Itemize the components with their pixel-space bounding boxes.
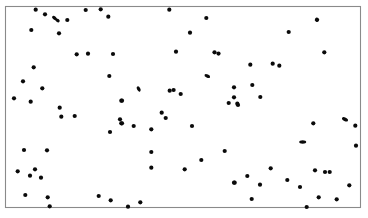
data-point [99,7,103,11]
data-point [354,144,358,148]
data-point [271,62,275,66]
data-point [21,79,25,83]
data-point [317,195,321,199]
data-point [57,31,61,35]
data-point [32,65,36,69]
data-point [45,148,49,152]
data-point [107,74,111,78]
data-point [248,63,252,67]
data-point [323,170,327,174]
data-point [109,198,113,202]
data-point [227,101,231,105]
data-point [183,167,187,171]
data-point [28,174,32,178]
data-point [299,140,306,143]
data-point [235,102,239,106]
data-point [216,52,220,56]
data-point [305,205,309,209]
data-point [258,183,262,187]
data-point [40,86,44,90]
data-point [250,197,254,201]
data-point [22,148,26,152]
data-point [287,30,291,34]
data-point [149,150,153,154]
data-point [39,176,43,180]
data-point [298,185,302,189]
data-point [285,178,289,182]
data-point [97,194,101,198]
data-point [232,95,236,99]
data-point [160,111,164,115]
data-point [232,181,236,185]
data-point [75,52,79,56]
data-point [33,167,37,171]
data-point [232,85,236,89]
data-point [164,116,168,120]
data-point [48,204,52,208]
data-point [132,124,136,128]
data-point [149,166,153,170]
data-point [46,195,50,199]
data-point [58,106,62,110]
data-point [43,12,47,16]
data-point [313,168,317,172]
data-point [277,64,281,68]
data-point [190,124,194,128]
data-point [335,197,339,201]
data-point [84,8,88,12]
data-point [138,200,142,204]
data-point [118,117,122,121]
data-point [322,50,326,54]
data-point [29,28,33,32]
scatter-plot-canvas [0,0,368,218]
data-point [120,99,124,103]
data-point [23,193,27,197]
scatter-figure [0,0,368,218]
data-point [172,88,176,92]
data-point [120,121,124,125]
data-point [34,8,38,12]
data-point [16,169,20,173]
data-point [86,52,90,56]
data-point [149,127,153,131]
data-point [245,174,249,178]
data-point [65,18,69,22]
data-point [347,183,351,187]
data-point [12,96,16,100]
data-point [269,166,273,170]
data-point [311,121,315,125]
data-point [111,52,115,56]
data-point [204,16,208,20]
data-point [108,130,112,134]
data-point [250,83,254,87]
data-point [167,8,171,12]
data-point [223,149,227,153]
data-point [59,115,63,119]
data-point [168,89,172,93]
data-point [106,15,110,19]
data-point [353,124,357,128]
data-point [328,170,332,174]
data-point [258,95,262,99]
data-point [179,92,183,96]
data-point [126,205,130,209]
data-point [29,100,33,104]
data-point [199,158,203,162]
data-point [73,114,77,118]
data-point [212,50,216,54]
data-point [188,31,192,35]
data-point [174,50,178,54]
